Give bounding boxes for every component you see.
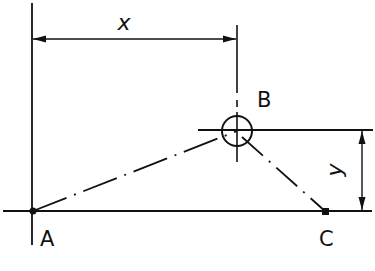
dimension-label-x: x bbox=[116, 10, 131, 35]
y-dimension-arrow-bottom-icon bbox=[359, 197, 366, 210]
point-label-a: A bbox=[40, 227, 55, 251]
point-a-marker bbox=[30, 208, 37, 215]
x-dimension-arrow-right-icon bbox=[223, 36, 236, 43]
point-label-c: C bbox=[319, 227, 334, 251]
geometry-diagram: x y B A C bbox=[0, 0, 375, 271]
segment-a-b bbox=[33, 131, 237, 211]
y-dimension-arrow-top-icon bbox=[359, 131, 366, 144]
x-dimension-arrow-left-icon bbox=[33, 36, 46, 43]
point-c-marker bbox=[322, 208, 329, 215]
point-label-b: B bbox=[257, 88, 271, 112]
dimension-label-y: y bbox=[322, 163, 347, 178]
segment-b-c bbox=[242, 137, 326, 212]
